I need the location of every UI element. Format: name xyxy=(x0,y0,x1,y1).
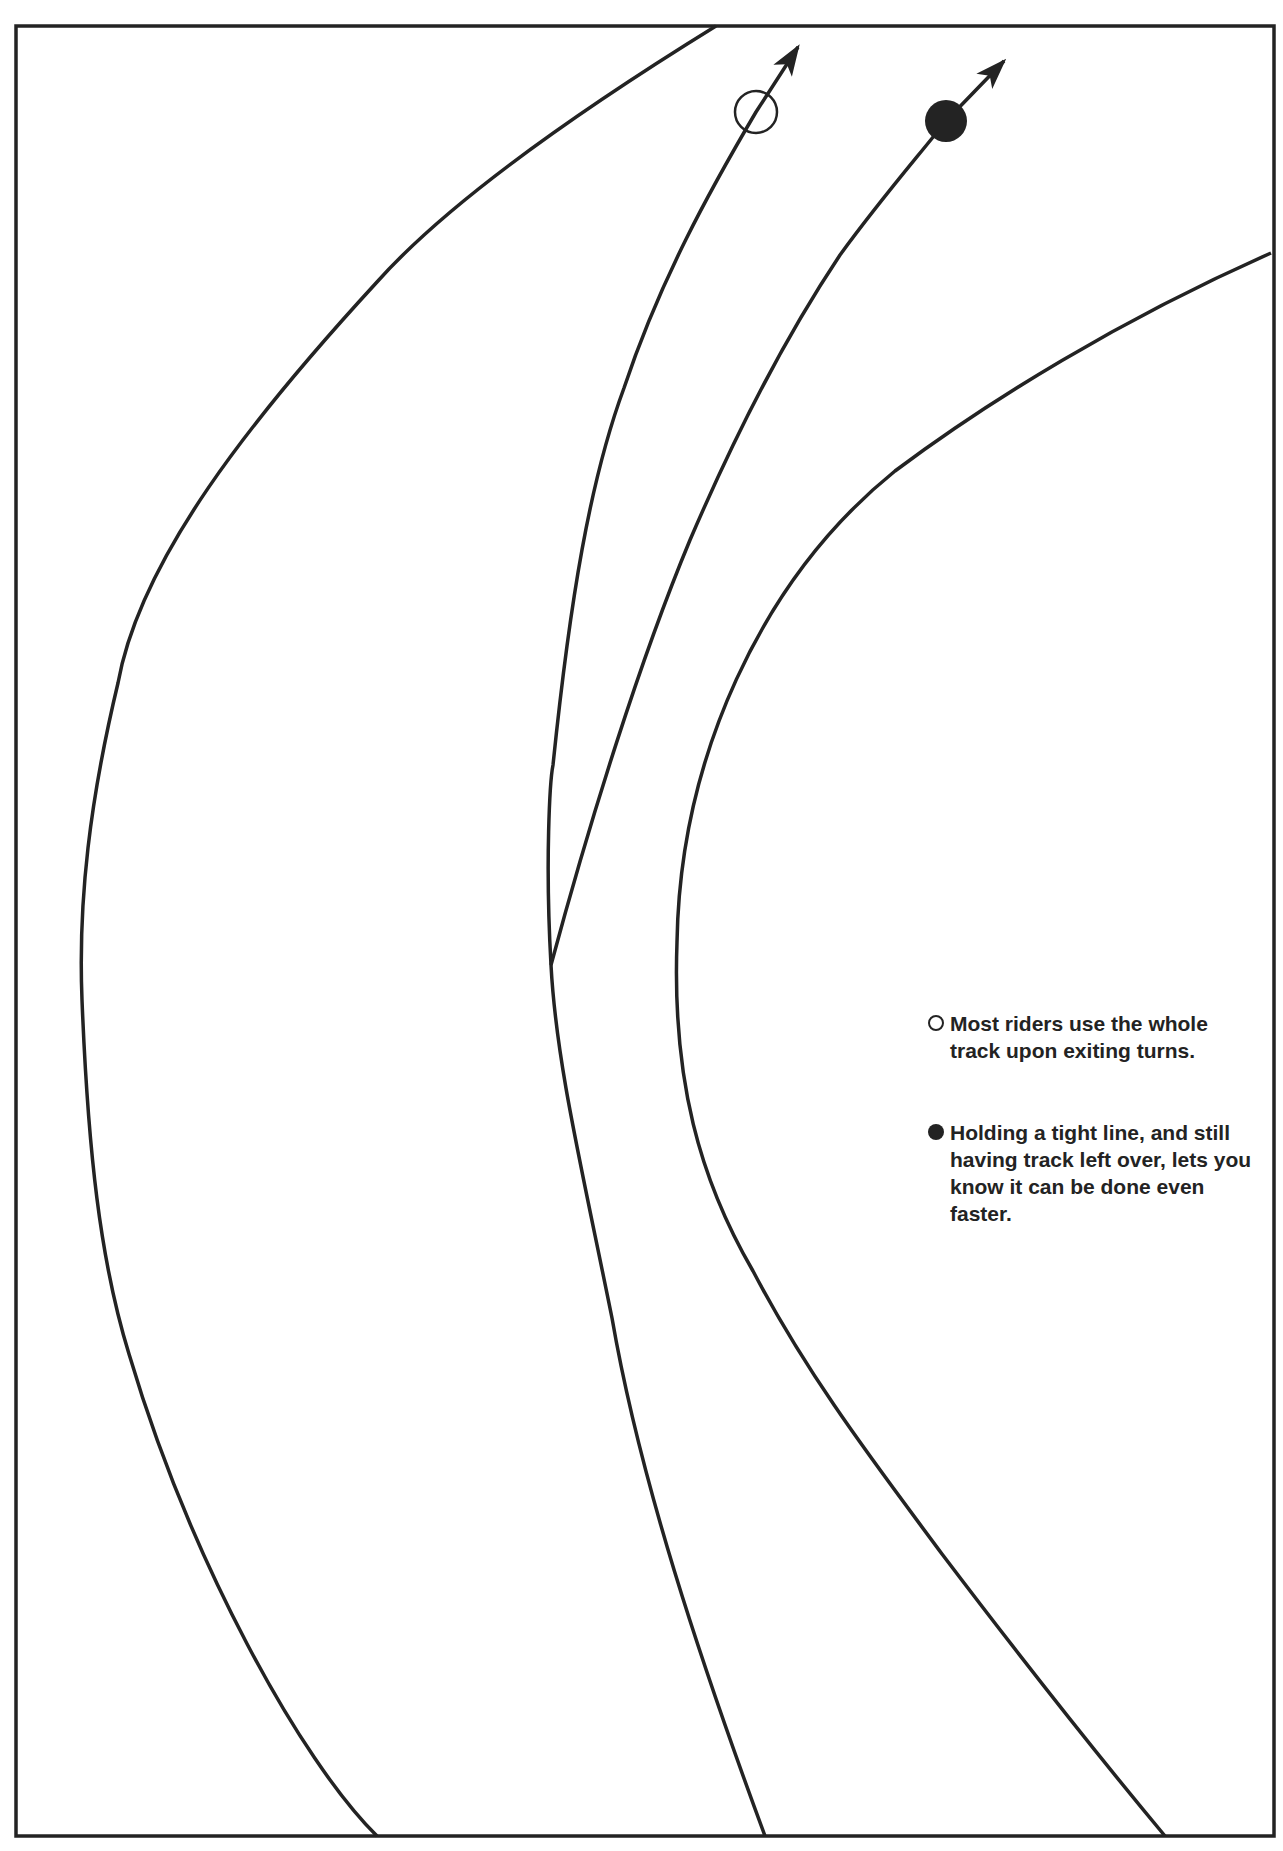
open-circle-icon xyxy=(928,1015,944,1031)
filled-circle-line xyxy=(551,61,1004,965)
legend-text-filled: Holding a tight line, and still having t… xyxy=(950,1121,1251,1225)
legend: Most riders use the whole track upon exi… xyxy=(926,1010,1256,1227)
legend-item-open: Most riders use the whole track upon exi… xyxy=(926,1010,1256,1064)
legend-item-filled: Holding a tight line, and still having t… xyxy=(926,1119,1256,1227)
legend-text-open: Most riders use the whole track upon exi… xyxy=(950,1012,1208,1062)
filled-circle-rider-marker xyxy=(925,100,967,142)
track-diagram xyxy=(0,0,1283,1851)
filled-circle-icon xyxy=(928,1124,944,1140)
open-circle-line xyxy=(548,47,798,1836)
track-left-edge xyxy=(81,26,716,1836)
page-frame xyxy=(16,26,1274,1836)
